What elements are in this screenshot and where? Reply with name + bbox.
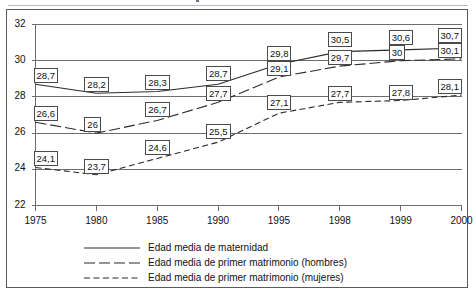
- x-tick-label: 1975: [24, 215, 46, 226]
- y-tick-label: 24: [14, 162, 25, 173]
- legend-key-long-dash-icon: [84, 257, 140, 269]
- data-label: 24,1: [34, 151, 59, 166]
- x-tick-label: 2000: [450, 215, 472, 226]
- data-label: 29,8: [267, 46, 292, 61]
- legend-key-short-dash-icon: [84, 272, 140, 284]
- data-label: 30: [389, 45, 406, 60]
- data-label: 25,5: [206, 124, 231, 139]
- data-label: 27,7: [206, 86, 231, 101]
- legend-item: Edad media de primer matrimonio (mujeres…: [84, 270, 414, 285]
- data-label: 30,6: [389, 30, 414, 45]
- data-label: 28,2: [84, 77, 109, 92]
- data-label: 27,7: [328, 86, 353, 101]
- data-label: 30,1: [438, 43, 463, 58]
- legend-label-matrimonio-mujeres: Edad media de primer matrimonio (mujeres…: [148, 272, 344, 283]
- data-label: 26,7: [145, 102, 170, 117]
- legend-item: Edad media de primer matrimonio (hombres…: [84, 255, 414, 270]
- data-label: 24,6: [145, 140, 170, 155]
- data-label: 26: [84, 117, 101, 132]
- legend-label-maternidad: Edad media de maternidad: [148, 242, 268, 253]
- data-label: 28,3: [145, 75, 170, 90]
- data-label: 28,7: [34, 68, 59, 83]
- series-lines: [36, 48, 462, 175]
- x-tick-label: 1999: [390, 215, 412, 226]
- legend-label-matrimonio-hombres: Edad media de primer matrimonio (hombres…: [148, 257, 347, 268]
- y-tick-label: 30: [14, 54, 25, 65]
- data-label: 26,6: [34, 106, 59, 121]
- x-tick-label: 1995: [268, 215, 290, 226]
- x-tick-label: 1980: [85, 215, 107, 226]
- y-tick-label: 22: [14, 199, 25, 210]
- x-tick-label: 1990: [207, 215, 229, 226]
- data-label: 29,1: [267, 61, 292, 76]
- data-label: 30,7: [438, 28, 463, 43]
- y-tick-label: 28: [14, 90, 25, 101]
- data-label: 30,5: [328, 32, 353, 47]
- data-label: 27,8: [389, 85, 414, 100]
- data-label: 28,1: [438, 79, 463, 94]
- data-label: 23,7: [84, 159, 109, 174]
- x-tick-label: 1998: [329, 215, 351, 226]
- data-label: 28,7: [206, 66, 231, 81]
- legend-key-solid-icon: [84, 242, 140, 254]
- legend-item: Edad media de maternidad: [84, 240, 414, 255]
- data-label: 29,7: [328, 50, 353, 65]
- chart-figure: 323028262422 197519801985199019951998199…: [0, 0, 476, 297]
- chart-legend: Edad media de maternidad Edad media de p…: [84, 240, 414, 285]
- y-tick-label: 26: [14, 126, 25, 137]
- x-tick-label: 1985: [146, 215, 168, 226]
- y-tick-label: 32: [14, 18, 25, 29]
- data-label: 27,1: [267, 95, 292, 110]
